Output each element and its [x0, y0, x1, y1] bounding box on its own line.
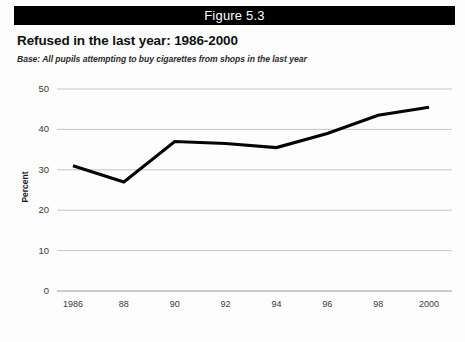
x-tick-label: 90	[155, 300, 195, 309]
gridlines-group	[57, 89, 452, 291]
x-tick-label: 96	[307, 300, 347, 309]
data-series-line	[73, 107, 429, 182]
series-group	[73, 107, 429, 182]
y-tick-label: 0	[23, 286, 49, 296]
x-tick-label: 1986	[53, 300, 93, 309]
x-tick-label: 98	[358, 300, 398, 309]
y-tick-label: 40	[23, 124, 49, 134]
chart-canvas	[0, 0, 465, 342]
x-tick-label: 94	[256, 300, 296, 309]
x-tick-label: 92	[206, 300, 246, 309]
plot-area: Percent 01020304050 19868890929496982000	[0, 0, 465, 342]
y-tick-label: 30	[23, 165, 49, 175]
x-tick-label: 88	[104, 300, 144, 309]
y-tick-label: 50	[23, 84, 49, 94]
figure-root: Figure 5.3 Refused in the last year: 198…	[0, 0, 465, 342]
y-tick-label: 10	[23, 246, 49, 256]
y-tick-label: 20	[23, 205, 49, 215]
x-tick-label: 2000	[409, 300, 449, 309]
